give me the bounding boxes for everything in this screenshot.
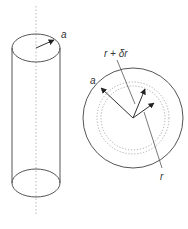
outer-radius-label: a (90, 75, 96, 86)
outer-radius-arrow (101, 88, 133, 118)
cross-section: a r + δr r (83, 48, 183, 182)
shell-outer-label: r + δr (104, 48, 128, 59)
shell-inner-leader-line (144, 112, 162, 168)
cylinder-radius-label: a (61, 29, 67, 40)
shell-inner-label: r (160, 171, 164, 182)
cylinder-diagram: a a r + δr r (0, 0, 188, 229)
radius-arrow (36, 40, 54, 48)
cylinder: a (12, 6, 67, 216)
